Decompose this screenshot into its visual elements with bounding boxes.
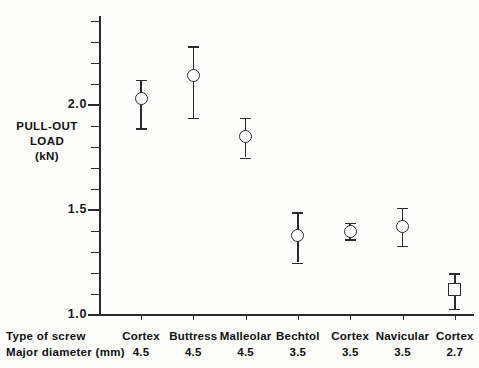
bottom-row-label-type: Type of screw: [6, 330, 86, 342]
error-bar-cap-upper: [397, 208, 408, 210]
x-tick-5: [403, 314, 404, 320]
x-tick-2: [246, 314, 247, 320]
error-bar-cap-lower: [136, 128, 147, 130]
error-bar-line: [245, 118, 247, 158]
y-axis-line: [99, 16, 101, 316]
category-name-5: Navicular: [373, 330, 433, 342]
marker-circle: [135, 92, 148, 105]
error-bar-cap-upper: [240, 118, 251, 120]
error-bar-cap-lower: [397, 246, 408, 248]
error-bar-cap-lower: [345, 239, 356, 241]
error-bar-line: [402, 208, 404, 246]
y-tick-1.3: [91, 252, 99, 253]
y-tick-1.0: [88, 314, 99, 316]
error-bar-cap-upper: [136, 80, 147, 82]
y-tick-1.1: [91, 294, 99, 295]
y-tick-1.4: [91, 231, 99, 232]
y-tick-label-1.5: 1.5: [53, 202, 87, 216]
y-tick-1.2: [91, 273, 99, 274]
error-bar-cap-lower: [292, 263, 303, 265]
error-bar-line: [349, 223, 351, 240]
error-bar-line: [193, 46, 195, 117]
category-diameter-4: 3.5: [320, 346, 380, 358]
y-axis-title-line-2: LOAD: [4, 134, 90, 149]
y-tick-1.7: [91, 168, 99, 169]
error-bar-cap-upper: [188, 46, 199, 48]
marker-circle: [396, 220, 409, 233]
category-diameter-6: 2.7: [425, 346, 479, 358]
category-diameter-5: 3.5: [373, 346, 433, 358]
category-name-2: Malleolar: [216, 330, 276, 342]
category-name-1: Buttress: [163, 330, 223, 342]
y-tick-label-2.0: 2.0: [53, 97, 87, 111]
y-tick-1.6: [91, 189, 99, 190]
x-tick-0: [141, 314, 142, 320]
x-axis-line: [99, 314, 474, 316]
error-bar-cap-lower: [240, 158, 251, 160]
chart-figure: PULL-OUT LOAD (kN) 1.01.52.0 Cortex4.5Bu…: [0, 0, 479, 368]
y-axis-title-line-3: (kN): [4, 149, 90, 164]
error-bar-line: [297, 212, 299, 262]
x-tick-1: [193, 314, 194, 320]
category-name-0: Cortex: [111, 330, 171, 342]
bottom-row-label-diameter: Major diameter (mm): [6, 346, 125, 358]
marker-circle: [239, 130, 252, 143]
y-tick-2.4: [91, 21, 99, 22]
error-bar-line: [454, 273, 456, 309]
category-name-3: Bechtol: [268, 330, 328, 342]
y-tick-2.1: [91, 84, 99, 85]
category-diameter-2: 4.5: [216, 346, 276, 358]
marker-circle: [344, 225, 357, 238]
marker-square: [448, 283, 461, 296]
category-diameter-1: 4.5: [163, 346, 223, 358]
category-name-4: Cortex: [320, 330, 380, 342]
error-bar-cap-lower: [449, 309, 460, 311]
x-tick-4: [350, 314, 351, 320]
marker-circle: [187, 69, 200, 82]
error-bar-line: [140, 80, 142, 128]
x-tick-6: [455, 314, 456, 320]
error-bar-cap-upper: [449, 273, 460, 275]
category-name-6: Cortex: [425, 330, 479, 342]
y-tick-1.9: [91, 126, 99, 127]
y-axis-title-line-1: PULL-OUT: [4, 119, 90, 134]
y-tick-2.3: [91, 42, 99, 43]
y-tick-2.2: [91, 63, 99, 64]
y-tick-1.8: [91, 147, 99, 148]
y-tick-label-1.0: 1.0: [53, 307, 87, 321]
category-diameter-3: 3.5: [268, 346, 328, 358]
y-tick-2.0: [88, 104, 99, 106]
x-tick-3: [298, 314, 299, 320]
error-bar-cap-upper: [292, 212, 303, 214]
y-axis-title: PULL-OUT LOAD (kN): [4, 119, 90, 164]
marker-circle: [291, 229, 304, 242]
error-bar-cap-lower: [188, 118, 199, 120]
y-tick-1.5: [88, 209, 99, 211]
error-bar-cap-upper: [345, 223, 356, 225]
